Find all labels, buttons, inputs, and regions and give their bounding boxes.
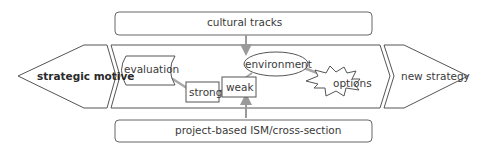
strategic-motive-label: strategic motive <box>37 71 134 82</box>
strong-label: strong <box>189 87 222 98</box>
project-based-label: project-based ISM/cross-section <box>175 125 341 136</box>
weak-label: weak <box>226 82 254 93</box>
cultural-tracks-label: cultural tracks <box>207 17 282 28</box>
options-label: options <box>333 78 372 89</box>
new-strategy-label: new strategy <box>401 71 470 82</box>
environment-label: environment <box>245 59 312 70</box>
strategy-diagram: cultural tracks project-based ISM/cross-… <box>0 0 482 151</box>
evaluation-label: evaluation <box>124 64 179 75</box>
